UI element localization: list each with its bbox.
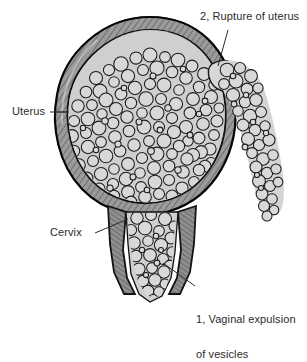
label-uterus: Uterus	[12, 106, 45, 118]
label-vaginal-line-1: 1, Vaginal expulsion	[196, 314, 296, 326]
label-cervix: Cervix	[50, 227, 82, 239]
label-vaginal-expulsion: 1, Vaginal expulsion of vesicles	[196, 291, 296, 362]
label-vaginal-line-2: of vesicles	[196, 349, 296, 361]
label-rupture-of-uterus: 2, Rupture of uterus	[200, 11, 299, 23]
